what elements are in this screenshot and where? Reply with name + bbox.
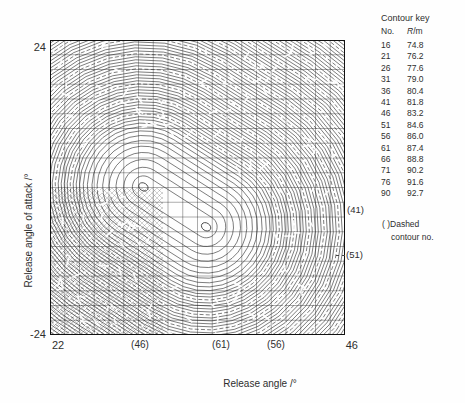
contour-key-row: 7190.2 bbox=[381, 165, 430, 176]
dashed-contour-note: ( )Dashed contour no. bbox=[382, 218, 434, 244]
dashed-contour-label-61: (61) bbox=[203, 339, 239, 350]
dashed-contour-label-41-text: (41) bbox=[347, 204, 364, 215]
contour-key-row: 2176.2 bbox=[381, 51, 430, 62]
contour-key-row: 3179.0 bbox=[381, 74, 430, 85]
dashed-leader-line bbox=[336, 255, 345, 256]
contour-key-header: No.R/m bbox=[381, 26, 430, 36]
contour-figure: Release angle of attack /° 24 -24 22 (46… bbox=[0, 0, 465, 403]
contour-plot-canvas bbox=[50, 40, 345, 335]
x-tick-left: 22 bbox=[52, 339, 64, 351]
contour-key-rows: 1674.82176.22677.63179.03680.44181.84683… bbox=[381, 40, 430, 199]
contour-key-row: 6187.4 bbox=[381, 143, 430, 154]
contour-key-row: 6688.8 bbox=[381, 154, 430, 165]
dashed-contour-label-56: (56) bbox=[258, 339, 294, 350]
contour-key-row: 9092.7 bbox=[381, 188, 430, 199]
dashed-contour-note-line2: contour no. bbox=[391, 231, 434, 244]
contour-key-col-no: No. bbox=[381, 26, 407, 36]
y-axis-min-label: -24 bbox=[14, 328, 46, 340]
y-axis-title: Release angle of attack /° bbox=[23, 151, 36, 311]
contour-key-row: 4683.2 bbox=[381, 108, 430, 119]
contour-key-row: 1674.8 bbox=[381, 40, 430, 51]
x-axis-title: Release angle /° bbox=[185, 378, 335, 389]
contour-key-row: 3680.4 bbox=[381, 86, 430, 97]
contour-key-row: 4181.8 bbox=[381, 97, 430, 108]
contour-key-row: 2677.6 bbox=[381, 63, 430, 74]
y-axis-max-label: 24 bbox=[20, 41, 46, 53]
contour-key-row: 7691.6 bbox=[381, 177, 430, 188]
dashed-contour-note-line1: ( )Dashed bbox=[382, 218, 434, 231]
dashed-contour-label-51-text: (51) bbox=[346, 249, 363, 260]
contour-key-title: Contour key bbox=[381, 13, 430, 23]
dashed-contour-label-46: (46) bbox=[122, 339, 158, 350]
x-tick-right: 46 bbox=[338, 339, 358, 351]
contour-key-row: 5184.6 bbox=[381, 120, 430, 131]
contour-key: Contour key No.R/m 1674.82176.22677.6317… bbox=[381, 13, 430, 199]
dashed-contour-label-41: (41) bbox=[347, 204, 364, 215]
contour-key-row: 5686.0 bbox=[381, 131, 430, 142]
contour-plot-area bbox=[50, 40, 345, 335]
contour-key-col-r-unit: /m bbox=[413, 26, 422, 36]
dashed-contour-label-51: (51) bbox=[336, 249, 363, 260]
